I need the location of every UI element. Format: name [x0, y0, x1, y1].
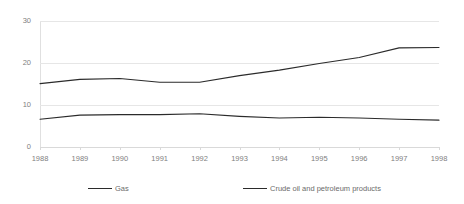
x-axis-tick-mark: [120, 147, 121, 150]
x-axis-tick-label: 1997: [377, 154, 421, 163]
legend-item-gas[interactable]: Gas: [88, 181, 129, 195]
series-line: [40, 114, 439, 120]
x-axis-tick-label: 1994: [257, 154, 301, 163]
y-axis-tick-label: 10: [5, 101, 31, 109]
line-chart: 0102030 19881989199019911992199319941995…: [0, 0, 464, 204]
x-axis-tick-mark: [319, 147, 320, 150]
plot-area: [40, 21, 439, 147]
x-axis-tick-label: 1993: [218, 154, 262, 163]
x-axis-tick-label: 1989: [58, 154, 102, 163]
legend-label: Gas: [115, 184, 129, 193]
legend-swatch-icon: [243, 188, 267, 189]
legend-swatch-icon: [88, 188, 112, 189]
x-axis-tick-mark: [439, 147, 440, 150]
x-axis-tick-label: 1995: [297, 154, 341, 163]
x-axis-tick-label: 1991: [138, 154, 182, 163]
y-axis-tick-label: 20: [5, 59, 31, 67]
x-axis-tick-mark: [399, 147, 400, 150]
series-lines: [40, 21, 439, 147]
x-axis-tick-label: 1988: [18, 154, 62, 163]
x-axis-tick-mark: [240, 147, 241, 150]
x-axis-tick-mark: [80, 147, 81, 150]
x-axis-tick-mark: [279, 147, 280, 150]
legend-label: Crude oil and petroleum products: [270, 184, 381, 193]
legend-item-crude-oil-and-petroleum-products[interactable]: Crude oil and petroleum products: [243, 181, 381, 195]
y-axis-tick-label: 30: [5, 17, 31, 25]
series-line: [40, 47, 439, 83]
x-axis-tick-mark: [359, 147, 360, 150]
x-axis-tick-mark: [160, 147, 161, 150]
x-axis-tick-label: 1990: [98, 154, 142, 163]
x-axis-tick-mark: [200, 147, 201, 150]
y-axis-tick-label: 0: [5, 143, 31, 151]
x-axis-tick-label: 1998: [417, 154, 461, 163]
x-axis-tick-label: 1996: [337, 154, 381, 163]
chart-legend: Gas Crude oil and petroleum products: [0, 181, 464, 195]
x-axis-tick-mark: [40, 147, 41, 150]
x-axis-tick-label: 1992: [178, 154, 222, 163]
